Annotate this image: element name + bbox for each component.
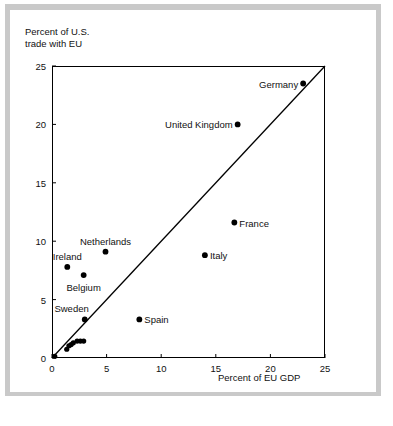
point-label: Spain	[144, 314, 168, 325]
x-tick-label: 0	[42, 363, 62, 374]
plot-area: 05101520250510152025GermanyUnited Kingdo…	[52, 66, 325, 358]
data-point[interactable]	[81, 338, 86, 343]
data-point[interactable]	[300, 81, 306, 87]
point-label: Sweden	[54, 303, 88, 314]
reference-line-45deg	[52, 66, 325, 358]
y-tick-label: 10	[26, 236, 46, 247]
point-label: Italy	[210, 250, 227, 261]
x-axis-title: Percent of EU GDP	[218, 372, 300, 383]
y-tick-label: 0	[26, 353, 46, 364]
point-label: United Kingdom	[165, 119, 233, 130]
data-point[interactable]	[52, 354, 57, 359]
y-tick-label: 15	[26, 177, 46, 188]
y-axis-title: Percent of U.S. trade with EU	[25, 26, 89, 50]
x-tick-label: 15	[206, 363, 226, 374]
point-label: Ireland	[53, 251, 82, 262]
point-label: Netherlands	[80, 236, 131, 247]
y-tick-label: 20	[26, 119, 46, 130]
point-label: Germany	[259, 78, 298, 89]
x-tick-label: 20	[260, 363, 280, 374]
data-point[interactable]	[136, 317, 142, 323]
data-point[interactable]	[202, 252, 208, 258]
point-label: France	[239, 217, 269, 228]
y-tick-label: 25	[26, 61, 46, 72]
plot-canvas	[52, 66, 325, 358]
data-point[interactable]	[81, 272, 87, 278]
x-tick-label: 10	[151, 363, 171, 374]
point-label: Belgium	[66, 282, 100, 293]
x-tick-label: 5	[97, 363, 117, 374]
x-tick-label: 25	[315, 363, 335, 374]
figure-root: Percent of U.S. trade with EU Percent of…	[0, 0, 393, 426]
y-tick-label: 5	[26, 294, 46, 305]
data-point[interactable]	[235, 122, 241, 128]
data-point[interactable]	[82, 317, 88, 323]
data-point[interactable]	[64, 264, 70, 270]
data-point[interactable]	[103, 249, 109, 255]
data-point[interactable]	[231, 220, 237, 226]
